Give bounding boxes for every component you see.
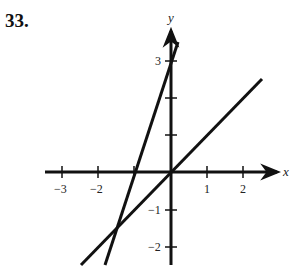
x-tick-label: −3 — [54, 182, 67, 196]
x-tick-label: 1 — [204, 182, 210, 196]
graph: −3 −2 1 2 3 −1 −2 x y — [0, 0, 297, 276]
y-axis-label: y — [166, 10, 174, 25]
x-tick-label: 2 — [240, 182, 246, 196]
x-axis-label: x — [282, 164, 289, 179]
line-steep — [105, 42, 178, 265]
y-tick-label: 3 — [155, 54, 161, 68]
x-tick-label: −2 — [90, 182, 103, 196]
y-tick-label: −2 — [148, 240, 161, 254]
y-tick-label: −1 — [148, 203, 161, 217]
